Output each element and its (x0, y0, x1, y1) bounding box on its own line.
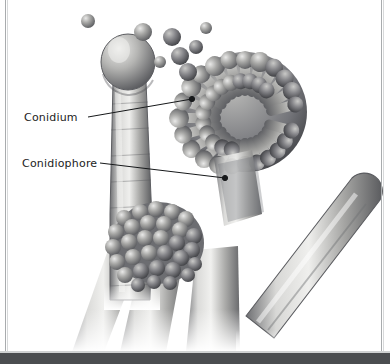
page-rule-left-inner (7, 0, 8, 354)
label-conidiophore: Conidiophore (22, 158, 97, 169)
page-bottom-bar (0, 353, 390, 364)
label-layer: Conidium Conidiophore (0, 0, 390, 352)
page-rule-right (381, 0, 382, 354)
label-conidium: Conidium (24, 112, 78, 123)
figure-page: Conidium Conidiophore (0, 0, 390, 364)
page-rule-right-inner (383, 0, 384, 354)
page-rule-left (5, 0, 6, 354)
